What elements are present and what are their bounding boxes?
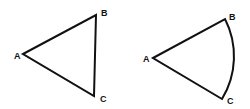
sector-label-b: B [229,12,236,22]
sector-shape [153,19,234,99]
sector-label-c: C [227,96,234,106]
diagram-canvas: A B C A B C [0,0,250,109]
sector-label-a: A [143,54,150,64]
triangle-label-b: B [101,8,108,18]
sector-figure: A B C [143,12,236,106]
triangle-label-c: C [100,94,107,104]
triangle-shape [23,15,96,96]
triangle-figure: A B C [14,8,108,104]
triangle-label-a: A [14,51,21,61]
